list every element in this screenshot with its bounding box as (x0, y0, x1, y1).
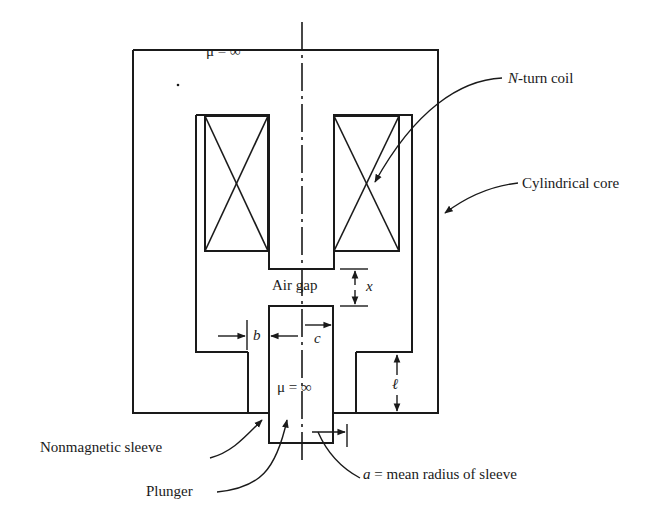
b-dimension-label: b (253, 328, 261, 343)
plunger-mu-label: μ = ∞ (277, 380, 312, 395)
core-outline (133, 50, 438, 413)
plunger (269, 306, 333, 443)
plunger-label: Plunger (146, 484, 193, 499)
coil-label: N-turn coil (508, 71, 573, 86)
sleeve-label: Nonmagnetic sleeve (40, 440, 162, 455)
core-mu-label: μ = ∞ (206, 44, 241, 59)
core-cavity (196, 115, 412, 352)
air-gap-label: Air gap (272, 278, 317, 293)
radius-label: a = mean radius of sleeve (363, 467, 517, 482)
core-label: Cylindrical core (522, 176, 619, 191)
c-dimension-label: c (314, 331, 321, 346)
l-dimension-label: ℓ (392, 377, 398, 392)
x-dimension-label: x (366, 279, 373, 294)
